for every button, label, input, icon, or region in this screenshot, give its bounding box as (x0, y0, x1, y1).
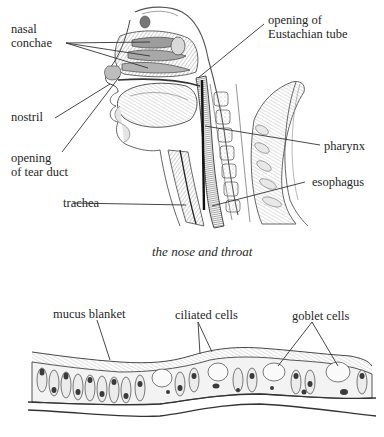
label-tear-duct-line2: of tear duct (11, 165, 68, 179)
label-eustachian-line2: Eustachian tube (268, 27, 348, 41)
label-eustachian-line1: opening of (268, 13, 348, 27)
label-nasal-conchae: nasal conchae (11, 22, 52, 50)
label-tear-duct: opening of tear duct (11, 151, 68, 179)
label-pharynx: pharynx (324, 139, 365, 153)
label-tear-duct-line1: opening (11, 151, 68, 165)
label-nasal-line1: nasal (11, 22, 52, 36)
label-esophagus: esophagus (312, 175, 364, 189)
label-goblet-cells: goblet cells (292, 309, 349, 323)
figure-caption: the nose and throat (152, 244, 252, 260)
epithelium-illustration (28, 320, 376, 416)
label-mucus-blanket: mucus blanket (53, 307, 126, 321)
label-nasal-line2: conchae (11, 36, 52, 50)
label-trachea: trachea (63, 196, 99, 210)
label-eustachian-tube: opening of Eustachian tube (268, 13, 348, 41)
label-nostril: nostril (11, 110, 43, 124)
label-ciliated-cells: ciliated cells (175, 308, 238, 322)
nose-throat-illustration (0, 0, 384, 437)
